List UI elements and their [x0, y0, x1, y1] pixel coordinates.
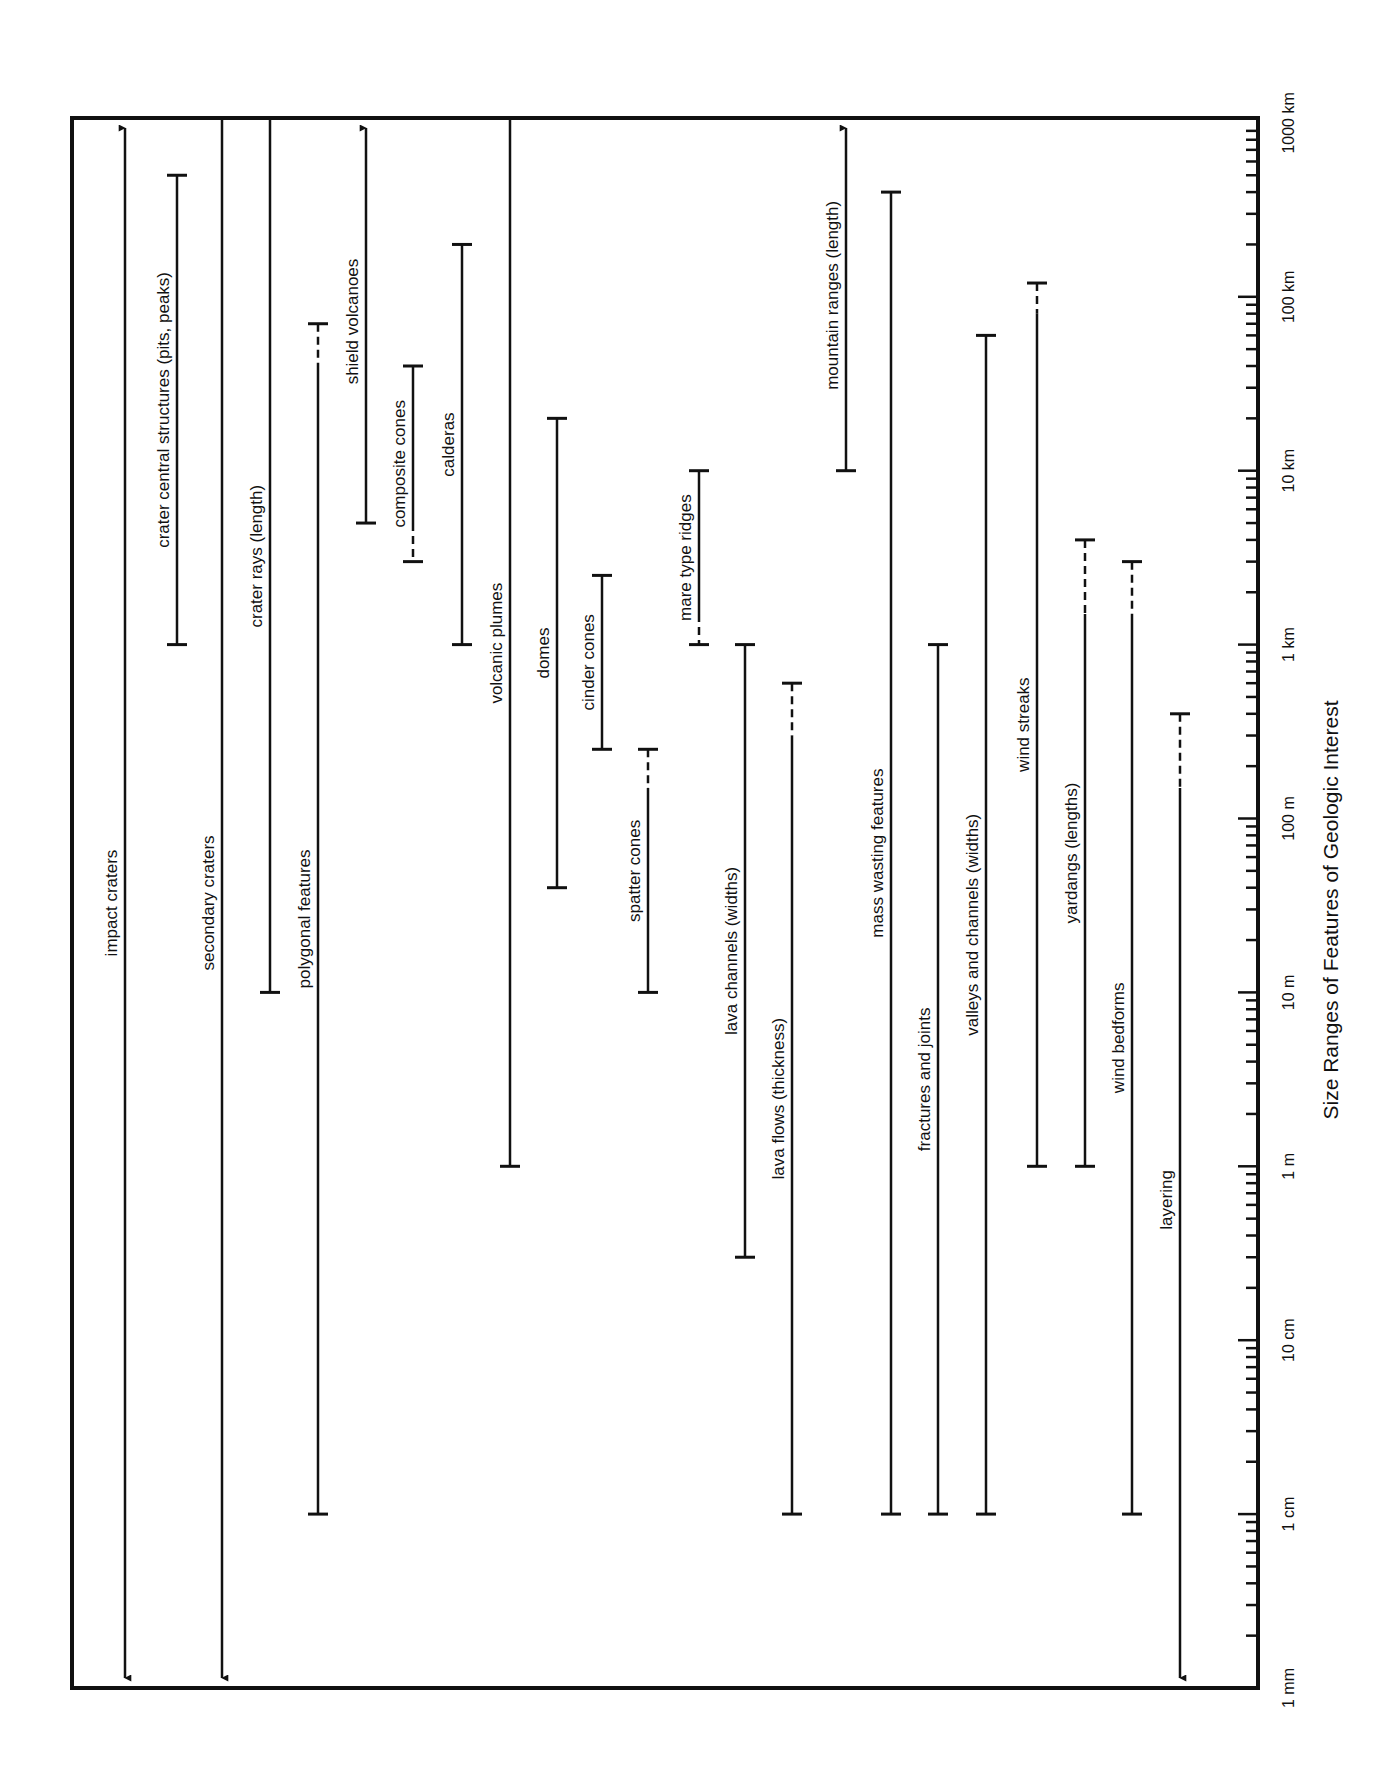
- bar-label: polygonal features: [295, 849, 314, 988]
- tick-label: 1000 km: [1280, 92, 1297, 153]
- range-bar: shield volcanoes: [343, 128, 376, 523]
- range-bar: mass wasting features: [868, 192, 901, 1514]
- bar-label: calderas: [439, 412, 458, 476]
- range-bar: crater central structures (pits, peaks): [154, 175, 187, 644]
- tick-label: 10 cm: [1280, 1318, 1297, 1362]
- bar-label: crater central structures (pits, peaks): [154, 272, 173, 548]
- bar-label: wind streaks: [1014, 677, 1033, 772]
- tick-label: 10 km: [1280, 449, 1297, 493]
- range-bar: polygonal features: [295, 324, 328, 1514]
- range-bar: calderas: [439, 244, 472, 644]
- bar-label: mass wasting features: [868, 769, 887, 938]
- range-bar: wind streaks: [1014, 283, 1047, 1166]
- bar-label: spatter cones: [625, 820, 644, 922]
- tick-label: 1 km: [1280, 627, 1297, 662]
- tick-label: 10 m: [1280, 975, 1297, 1011]
- bar-label: crater rays (length): [247, 485, 266, 628]
- bar-label: volcanic plumes: [487, 583, 506, 704]
- bar-label: yardangs (lengths): [1062, 783, 1081, 924]
- tick-label: 1 m: [1280, 1153, 1297, 1180]
- range-bar: crater rays (length): [247, 120, 280, 992]
- range-bar: wind bedforms: [1109, 562, 1142, 1514]
- bar-label: lava flows (thickness): [769, 1018, 788, 1180]
- bar-label: cinder cones: [579, 614, 598, 710]
- range-bar: mare type ridges: [676, 471, 709, 645]
- bar-label: mare type ridges: [676, 494, 695, 621]
- axis-tick-labels: 1 mm1 cm10 cm1 m10 m100 m1 km10 km100 km…: [1280, 92, 1297, 1708]
- range-bar: spatter cones: [625, 749, 658, 992]
- bar-label: impact craters: [102, 850, 121, 957]
- range-bar: domes: [534, 418, 567, 887]
- tick-label: 100 m: [1280, 796, 1297, 840]
- range-bar: fractures and joints: [915, 645, 948, 1515]
- bar-label: lava channels (widths): [722, 867, 741, 1035]
- range-bar: secondary craters: [199, 120, 222, 1678]
- size-range-chart: 1 mm1 cm10 cm1 m10 m100 m1 km10 km100 km…: [0, 0, 1392, 1778]
- log-axis-ticks: [1238, 131, 1258, 1688]
- bar-label: layering: [1157, 1170, 1176, 1230]
- tick-label: 1 mm: [1280, 1668, 1297, 1708]
- range-bar: cinder cones: [579, 575, 612, 749]
- range-bar: valleys and channels (widths): [963, 335, 996, 1514]
- bar-label: fractures and joints: [915, 1008, 934, 1152]
- range-bar: layering: [1157, 714, 1190, 1678]
- range-bar: volcanic plumes: [487, 120, 520, 1166]
- bar-label: secondary craters: [199, 835, 218, 970]
- bar-label: wind bedforms: [1109, 983, 1128, 1095]
- range-bar: lava channels (widths): [722, 645, 755, 1258]
- range-bars: impact craterscrater central structures …: [102, 120, 1190, 1678]
- bar-label: valleys and channels (widths): [963, 814, 982, 1036]
- axis-title: Size Ranges of Features of Geologic Inte…: [1319, 700, 1342, 1119]
- bar-label: composite cones: [390, 400, 409, 528]
- tick-label: 100 km: [1280, 271, 1297, 323]
- bar-label: mountain ranges (length): [823, 201, 842, 390]
- range-bar: mountain ranges (length): [823, 128, 856, 471]
- range-bar: impact craters: [102, 128, 125, 1678]
- bar-label: domes: [534, 628, 553, 679]
- tick-label: 1 cm: [1280, 1497, 1297, 1532]
- range-bar: yardangs (lengths): [1062, 540, 1095, 1166]
- range-bar: composite cones: [390, 366, 423, 562]
- range-bar: lava flows (thickness): [769, 683, 802, 1514]
- bar-label: shield volcanoes: [343, 259, 362, 385]
